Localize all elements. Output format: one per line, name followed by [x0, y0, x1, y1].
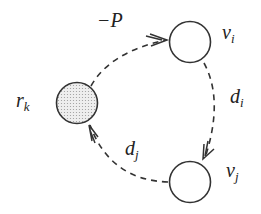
label-sub: k [24, 99, 30, 114]
label-base: v [222, 21, 231, 43]
node-vj [170, 162, 211, 203]
node-label-vi: vi [222, 22, 235, 45]
node-rk [57, 83, 98, 124]
label-sub: i [240, 95, 244, 110]
label-base: r [16, 89, 24, 111]
edge-label-di: di [230, 86, 244, 109]
label-sub: j [135, 147, 139, 162]
label-base: v [226, 159, 235, 181]
node-vi [170, 22, 211, 63]
edge-rk-to-vi [91, 34, 167, 86]
edge-label-dj: dj [125, 138, 139, 161]
edge-label-text: −P [97, 9, 123, 31]
label-base: d [125, 137, 135, 159]
node-label-rk: rk [16, 90, 30, 113]
edge-label-minus-p: −P [97, 10, 123, 30]
label-base: d [230, 85, 240, 107]
label-sub: j [235, 169, 239, 184]
edge-vi-to-vj [203, 63, 214, 159]
label-sub: i [231, 31, 235, 46]
node-label-vj: vj [226, 160, 239, 183]
